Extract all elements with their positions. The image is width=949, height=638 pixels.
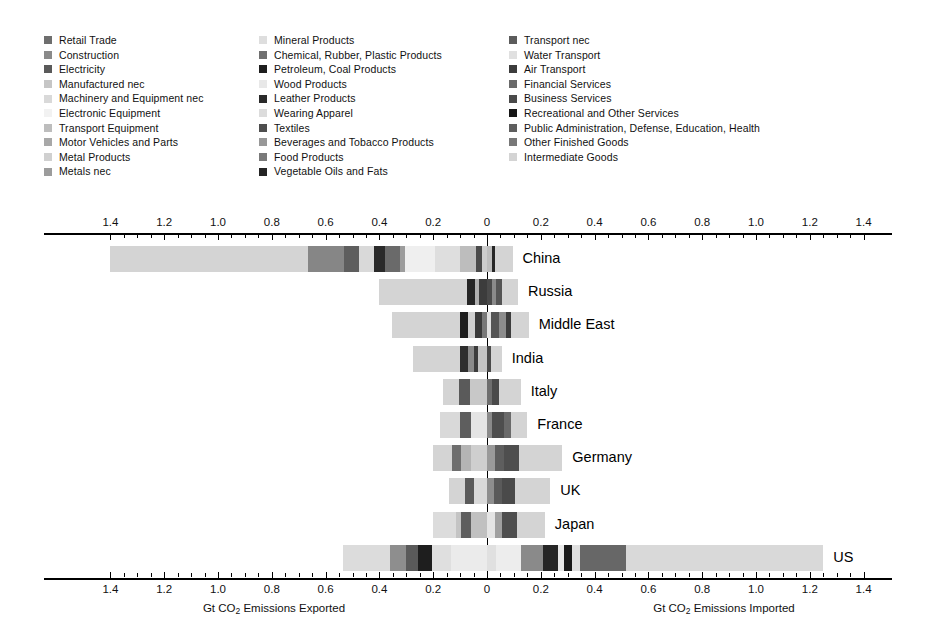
axis-tick-minor <box>837 234 838 238</box>
axis-tick-major <box>648 572 649 578</box>
axis-tick-major <box>272 572 273 578</box>
axis-tick-minor <box>474 573 475 577</box>
axis-tick-minor <box>420 573 421 577</box>
axis-tick-label: 0.4 <box>575 583 615 595</box>
bar-segment-exported <box>467 279 475 305</box>
bar-segment-exported <box>379 279 466 305</box>
legend-item-label: Metals nec <box>59 164 111 179</box>
axis-tick-minor <box>514 573 515 577</box>
axis-tick-label: 0.2 <box>521 583 561 595</box>
legend-item: Wood Products <box>259 77 509 92</box>
bar-row <box>44 445 892 471</box>
axis-tick-minor <box>393 234 394 238</box>
legend-item: Public Administration, Defense, Educatio… <box>509 121 869 136</box>
axis-tick-minor <box>514 234 515 238</box>
legend-item: Chemical, Rubber, Plastic Products <box>259 48 509 63</box>
axis-tick-major <box>218 234 219 240</box>
bar-segment-exported <box>471 512 487 538</box>
legend-item-label: Chemical, Rubber, Plastic Products <box>274 48 442 63</box>
axis-tick-minor <box>608 234 609 238</box>
legend-item-label: Public Administration, Defense, Educatio… <box>524 121 760 136</box>
bar-segment-exported <box>440 412 460 438</box>
bar-segment-exported <box>475 312 482 338</box>
axis-tick-label: 0.8 <box>252 583 292 595</box>
bar-segment-exported <box>418 545 431 571</box>
legend-item: Intermediate Goods <box>509 150 869 165</box>
bar-segment-imported <box>626 545 824 571</box>
legend-swatch-icon <box>509 124 517 132</box>
axis-tick-minor <box>823 234 824 238</box>
axis-label-exported: Gt CO2 Emissions Exported <box>114 602 434 616</box>
legend-item-label: Financial Services <box>524 77 611 92</box>
legend-swatch-icon <box>259 65 267 73</box>
axis-tick-major <box>810 572 811 578</box>
legend-swatch-icon <box>44 109 52 117</box>
legend-swatch-icon <box>44 124 52 132</box>
axis-tick-minor <box>729 234 730 238</box>
bar-segment-imported <box>504 412 511 438</box>
axis-tick-minor <box>178 234 179 238</box>
axis-tick-minor <box>622 573 623 577</box>
axis-tick-minor <box>151 573 152 577</box>
bar-segment-imported <box>499 379 521 405</box>
bar-row <box>44 512 892 538</box>
axis-tick-minor <box>339 234 340 238</box>
axis-tick-major <box>164 572 165 578</box>
legend-item: Air Transport <box>509 62 869 77</box>
legend-item-label: Intermediate Goods <box>524 150 618 165</box>
axis-tick-minor <box>339 573 340 577</box>
axis-tick-major <box>379 234 380 240</box>
axis-tick-minor <box>137 573 138 577</box>
axis-tick-minor <box>353 573 354 577</box>
axis-tick-major <box>272 234 273 240</box>
axis-tick-minor <box>662 573 663 577</box>
axis-tick-major <box>864 234 865 240</box>
bar-segment-imported <box>494 478 502 504</box>
bar-segment-imported <box>515 478 550 504</box>
axis-tick-minor <box>729 573 730 577</box>
legend-item: Transport Equipment <box>44 121 259 136</box>
bar-segment-imported <box>487 445 495 471</box>
category-label-middle-east: Middle East <box>539 316 615 332</box>
axis-tick-label: 1.2 <box>144 583 184 595</box>
legend-column-2: Mineral ProductsChemical, Rubber, Plasti… <box>259 33 509 193</box>
axis-tick-minor <box>743 234 744 238</box>
bar-segment-imported <box>499 312 506 338</box>
legend-swatch-icon <box>259 168 267 176</box>
bar-segment-exported <box>460 246 476 272</box>
axis-tick-minor <box>447 573 448 577</box>
bar-segment-exported <box>359 246 374 272</box>
category-label-italy: Italy <box>531 383 558 399</box>
axis-tick-major <box>433 234 434 240</box>
axis-tick-major <box>810 234 811 240</box>
axis-tick-major <box>110 572 111 578</box>
bar-segment-exported <box>452 445 461 471</box>
axis-tick-minor <box>258 573 259 577</box>
axis-tick-label: 0.6 <box>628 216 668 228</box>
legend-item: Electronic Equipment <box>44 106 259 121</box>
axis-tick-minor <box>124 234 125 238</box>
legend-item-label: Retail Trade <box>59 33 117 48</box>
legend-item-label: Other Finished Goods <box>524 135 629 150</box>
category-label-russia: Russia <box>528 283 572 299</box>
axis-tick-label: 0.2 <box>413 583 453 595</box>
legend-item-label: Food Products <box>274 150 344 165</box>
axis-tick-minor <box>675 573 676 577</box>
axis-tick-minor <box>460 573 461 577</box>
bar-segment-exported <box>459 379 470 405</box>
category-label-germany: Germany <box>572 449 632 465</box>
legend-item-label: Petroleum, Coal Products <box>274 62 396 77</box>
axis-tick-minor <box>675 234 676 238</box>
legend-item-label: Leather Products <box>274 91 356 106</box>
bar-segment-exported <box>460 346 468 372</box>
axis-tick-label: 1.0 <box>198 583 238 595</box>
axis-line-bottom <box>44 578 892 580</box>
axis-tick-major <box>326 572 327 578</box>
bar-segment-exported <box>468 312 475 338</box>
axis-tick-major <box>864 572 865 578</box>
axis-tick-minor <box>231 573 232 577</box>
bar-segment-imported <box>502 478 515 504</box>
axis-tick-label: 1.0 <box>198 216 238 228</box>
axis-tick-label: 1.2 <box>790 583 830 595</box>
axis-tick-major <box>595 572 596 578</box>
